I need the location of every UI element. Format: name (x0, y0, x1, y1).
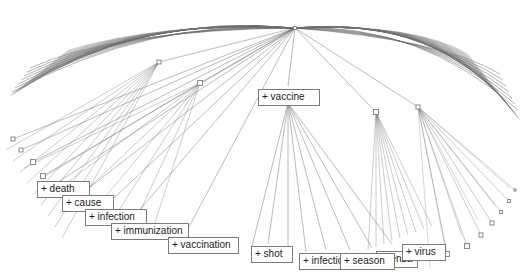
node-label-vaccine[interactable]: + vaccine (258, 89, 320, 106)
hyperbolic-tree-view[interactable]: + vaccine + death + cause + infection + … (0, 0, 530, 278)
node-label-shot[interactable]: + shot (251, 246, 293, 263)
node-label-vaccination[interactable]: + vaccination (168, 237, 239, 254)
node-label-virus[interactable]: + virus (402, 244, 446, 261)
graph-canvas[interactable] (0, 0, 530, 278)
node-label-season[interactable]: + season (340, 253, 395, 270)
edge-bundle (6, 28, 515, 268)
